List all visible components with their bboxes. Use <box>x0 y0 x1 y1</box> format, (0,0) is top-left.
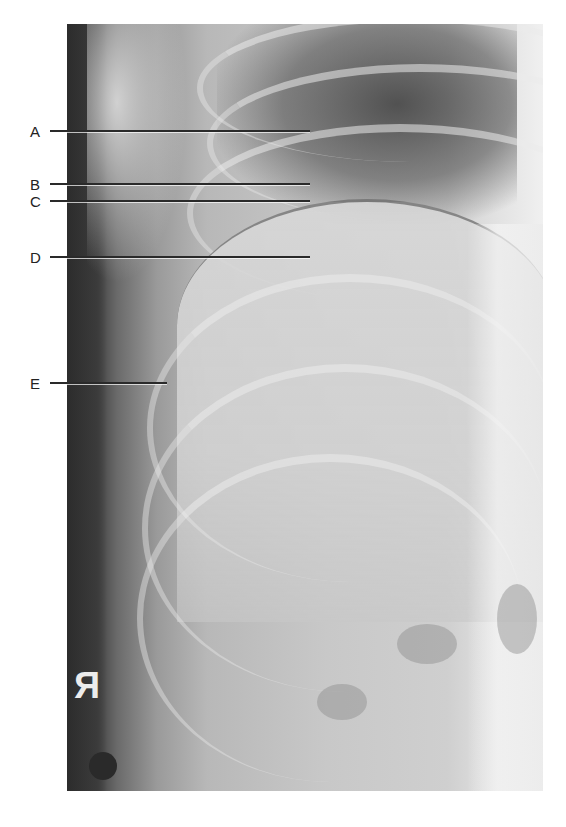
orientation-marker: R <box>74 668 100 704</box>
rib <box>137 454 523 782</box>
leader-line-c <box>50 200 310 202</box>
leader-line-b <box>50 183 310 185</box>
leader-line-d <box>50 256 310 258</box>
bowel-gas <box>497 584 537 654</box>
label-d: D <box>30 250 41 265</box>
xray-image: R <box>67 24 543 791</box>
label-a: A <box>30 124 40 139</box>
spine <box>467 224 543 791</box>
leader-line-e <box>50 382 167 384</box>
radiograph-figure: R A B C D E <box>0 0 566 827</box>
marker-dot <box>89 752 117 780</box>
soft-tissue-shadow <box>87 24 187 284</box>
label-b: B <box>30 177 40 192</box>
leader-line-a <box>50 130 310 132</box>
bowel-gas <box>397 624 457 664</box>
bowel-gas <box>317 684 367 720</box>
label-c: C <box>30 194 41 209</box>
label-e: E <box>30 376 40 391</box>
